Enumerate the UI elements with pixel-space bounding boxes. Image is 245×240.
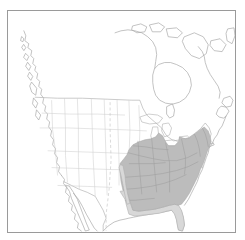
coast-baja-california (65, 185, 89, 231)
coast-island-fragment-3 (24, 54, 29, 61)
state-line-h2 (48, 151, 132, 154)
coast-hudson-bay (153, 63, 192, 105)
state-line-v3 (77, 98, 79, 189)
state-line-v6 (117, 99, 119, 185)
coast-island-fragment-5 (28, 72, 33, 80)
coast-island-fragment-6 (33, 98, 38, 108)
state-line-v5 (104, 99, 107, 195)
coast-arctic-island-1 (132, 24, 147, 33)
state-line-v2 (65, 98, 68, 182)
coast-arctic-island-3 (167, 28, 183, 38)
reference-meridian (106, 102, 111, 231)
coast-greenland-edge (226, 28, 235, 44)
coast-island-fragment-4 (26, 63, 31, 71)
state-line-h5 (42, 113, 125, 115)
map-canvas (8, 11, 235, 232)
coast-maritimes (216, 106, 229, 118)
range-layer (119, 127, 211, 231)
state-line-v4 (91, 98, 95, 196)
coast-island-fragment-2 (22, 45, 26, 51)
range-map-figure (0, 0, 245, 240)
border-us-mexico (64, 181, 107, 231)
coast-arctic-island-4 (210, 39, 226, 52)
coast-labrador (198, 47, 220, 99)
state-line-h1 (40, 128, 147, 131)
coast-northeast (209, 116, 226, 148)
coast-james-bay (167, 104, 175, 118)
coast-california (62, 176, 82, 231)
range-core-eastern-us (120, 127, 211, 211)
coast-vancouver-island (30, 82, 37, 95)
coast-island-fragment-7 (36, 110, 41, 120)
coast-arctic-island-2 (150, 23, 165, 32)
border-us-canada-west (35, 97, 140, 100)
map-frame (7, 10, 236, 233)
coast-island-fragment-1 (21, 37, 24, 42)
coast-newfoundland (222, 96, 233, 107)
coast-arctic-mainland (115, 30, 157, 69)
coast-baffin-island (182, 33, 208, 59)
